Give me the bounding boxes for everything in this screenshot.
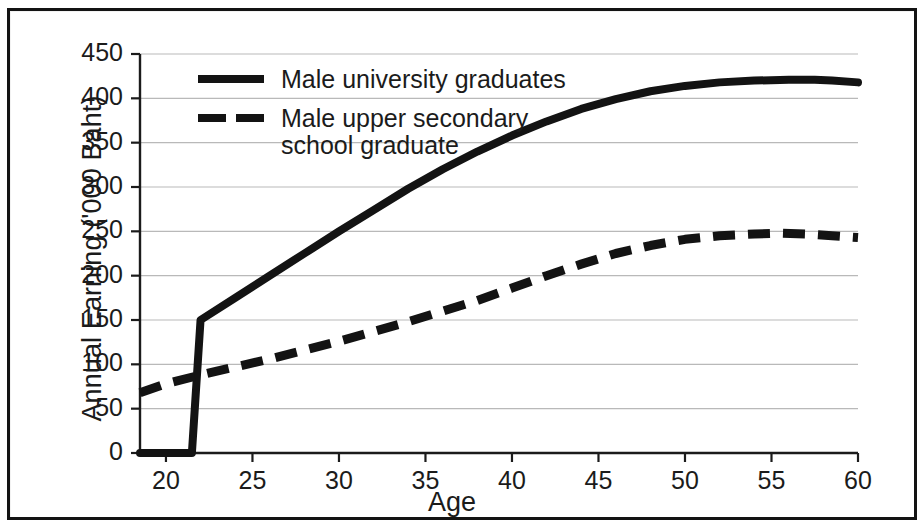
x-axis-title: Age bbox=[0, 487, 904, 518]
legend-swatch-solid-icon bbox=[198, 66, 264, 92]
legend-label-male-university-graduates: Male university graduates bbox=[281, 66, 566, 94]
legend-item-male-university-graduates: Male university graduates bbox=[198, 66, 566, 94]
legend-label-male-upper-secondary-school-graduate: Male upper secondary school graduate bbox=[281, 105, 528, 160]
y-axis-title: Annual Earning ('000 Baht) bbox=[77, 49, 108, 469]
legend-swatch-dashed-icon bbox=[198, 105, 264, 131]
chart-legend: Male university graduates Male upper sec… bbox=[198, 66, 566, 171]
series-line-2 bbox=[140, 233, 858, 393]
legend-item-male-upper-secondary-school-graduate: Male upper secondary school graduate bbox=[198, 105, 566, 160]
